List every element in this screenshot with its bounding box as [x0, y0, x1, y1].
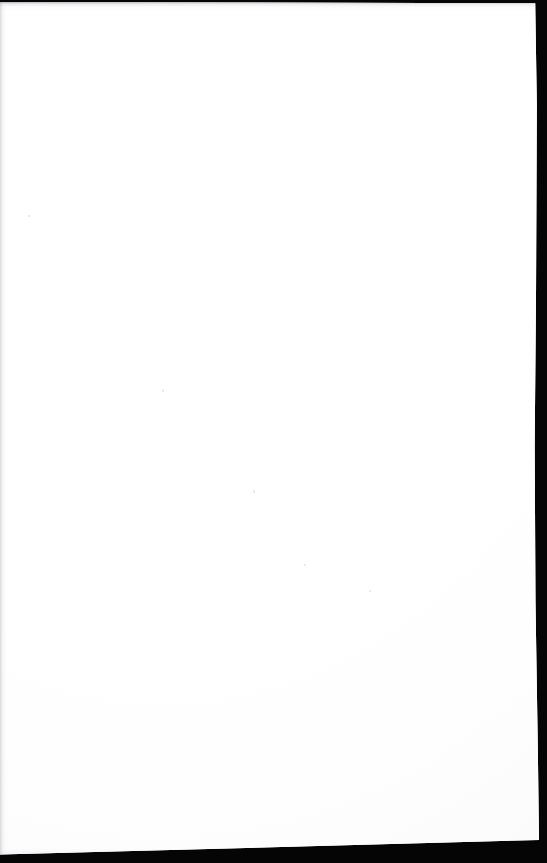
left-seam-shadow [0, 2, 7, 858]
page-content-area [34, 46, 509, 818]
scanned-page-frame [0, 0, 547, 863]
top-seam-shadow [0, 2, 539, 11]
dust-speck [28, 215, 30, 217]
paper-sheet [0, 2, 539, 858]
